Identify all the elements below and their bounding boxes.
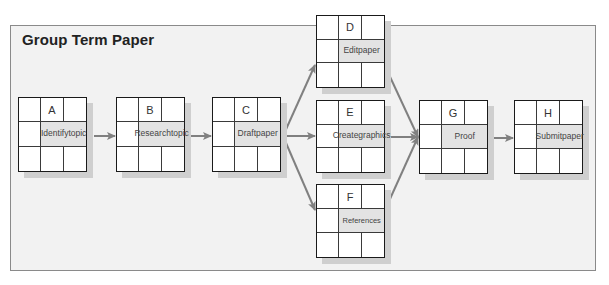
activity-node-f: F References (316, 184, 385, 258)
arrow-c-to-f (283, 136, 315, 210)
node-description: Researchtopic (139, 122, 184, 146)
node-id: C (235, 98, 257, 122)
activity-node-b: B Researchtopic (116, 97, 185, 172)
activity-node-e: E Creategraphics (316, 100, 385, 173)
node-id: D (339, 16, 361, 40)
activity-node-d: D Editpaper (316, 15, 385, 88)
activity-node-c: C Draftpaper (212, 97, 281, 172)
node-description: References (339, 209, 384, 233)
node-description: Identifytopic (41, 122, 86, 146)
arrow-c-to-d (283, 65, 315, 136)
node-id: E (339, 101, 361, 125)
activity-node-h: H Submitpaper (514, 100, 583, 174)
arrow-f-to-g (385, 137, 418, 210)
node-id: A (41, 98, 63, 122)
activity-node-g: G Proof (419, 100, 488, 174)
node-description: Submitpaper (537, 125, 582, 149)
node-description: Draftpaper (235, 122, 280, 146)
node-description: Creategraphics (339, 125, 384, 149)
activity-node-a: A Identifytopic (18, 97, 87, 172)
node-id: G (442, 101, 464, 125)
node-id: B (139, 98, 161, 122)
node-description: Proof (442, 125, 487, 149)
node-id: H (537, 101, 559, 125)
node-id: F (339, 185, 361, 209)
arrow-d-to-g (385, 66, 418, 137)
node-description: Editpaper (339, 40, 384, 64)
